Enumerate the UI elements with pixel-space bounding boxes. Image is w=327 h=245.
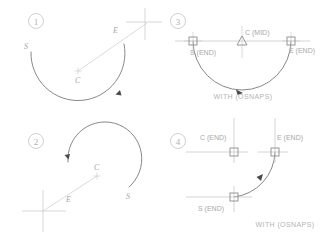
panel-4-caption: WITH (OSNAPS) <box>256 221 315 229</box>
center-point-marker-2 <box>94 173 101 180</box>
panel-1: 1 S E C <box>24 8 162 101</box>
crosshair-cursor-1[interactable] <box>126 8 162 40</box>
panel-4-center-label: C (END) <box>200 134 226 142</box>
panel-1-start-label: S <box>24 42 28 51</box>
panel-2-end-label: E <box>65 195 71 204</box>
rubberband-line-2 <box>43 176 97 211</box>
crosshair-cursor-2[interactable] <box>22 190 66 232</box>
arc-geometry-4 <box>234 152 275 197</box>
panel-1-end-label: E <box>112 26 118 35</box>
panel-3-end-label: E (END) <box>289 47 315 55</box>
panel-2: 2 S E C <box>22 122 142 232</box>
arc-direction-arrow-1 <box>116 90 122 96</box>
panel-1-number-badge: 1 <box>29 14 44 29</box>
panel-1-number: 1 <box>34 17 39 27</box>
panel-4-end-label: E (END) <box>277 134 303 142</box>
panel-3-number-badge: 3 <box>171 14 186 29</box>
figure-canvas: 1 S E C <box>0 0 327 245</box>
panel-3-number: 3 <box>176 17 181 27</box>
arc-geometry-2 <box>68 122 142 187</box>
panel-4-number: 4 <box>176 137 181 147</box>
panel-2-number-badge: 2 <box>29 134 44 149</box>
panel-4: 4 <box>171 118 315 229</box>
panel-2-number: 2 <box>34 137 39 147</box>
panel-3-caption: WITH (OSNAPS) <box>214 93 273 101</box>
panel-4-number-badge: 4 <box>171 134 186 149</box>
panel-3-center-label: C (MID) <box>245 29 270 37</box>
panel-3-start-label: S (END) <box>190 49 216 57</box>
center-point-marker-1 <box>75 68 82 75</box>
panel-3: 3 <box>171 14 316 102</box>
arc-direction-arrow-4 <box>257 174 264 181</box>
arc-direction-arrow-2 <box>65 154 71 160</box>
panel-1-center-label: C <box>75 76 81 85</box>
panel-2-center-label: C <box>94 163 100 172</box>
panel-4-start-label: S (END) <box>198 205 224 213</box>
panel-2-start-label: S <box>126 192 130 201</box>
